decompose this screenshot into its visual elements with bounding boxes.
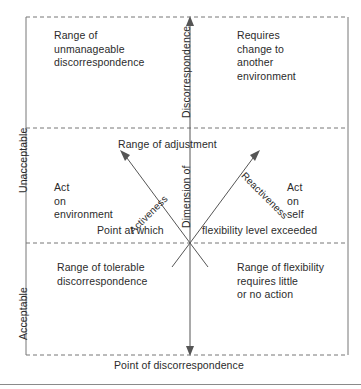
quadrant-lower-right-label: Range of flexibility requires little or … bbox=[237, 261, 324, 302]
quadrant-upper-right-label: Requires change to another environment bbox=[237, 29, 296, 83]
bottom-caption: Point of discorrespondence bbox=[114, 359, 244, 373]
axis-label-discorrespondence: Discorrespondence bbox=[180, 26, 192, 118]
axis-label-unacceptable: Unacceptable bbox=[17, 128, 29, 193]
quadrant-middle-right-label: Act on self bbox=[287, 181, 304, 222]
flexibility-level-exceeded-label: flexibility level exceeded bbox=[202, 224, 317, 238]
quadrant-lower-left-label: Range of tolerable discorrespondence bbox=[57, 261, 147, 288]
axis-label-acceptable: Acceptable bbox=[17, 287, 29, 340]
diagonal-label-reactiveness: Reactiveness bbox=[239, 170, 290, 221]
range-of-adjustment-label: Range of adjustment bbox=[118, 138, 217, 152]
discorrespondence-diagram: Range of unmanageable discorrespondence … bbox=[0, 0, 361, 389]
page-divider-rule bbox=[0, 384, 361, 385]
axis-label-dimension-of: Dimension of bbox=[180, 166, 192, 228]
quadrant-middle-left-label: Act on environment bbox=[54, 181, 113, 222]
quadrant-upper-left-label: Range of unmanageable discorrespondence bbox=[54, 29, 144, 70]
